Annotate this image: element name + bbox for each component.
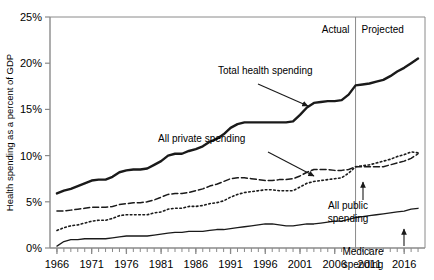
x-tick-label: 2016 (392, 258, 416, 270)
y-tick-label: 10% (20, 150, 42, 162)
x-tick-label: 1971 (79, 258, 103, 270)
projected-label: Projected (362, 24, 404, 35)
total-health-spending-arrow (258, 84, 308, 106)
x-tick-label: 1966 (45, 258, 69, 270)
y-tick-label: 15% (20, 103, 42, 115)
x-tick-label: 1976 (114, 258, 138, 270)
x-tick-label: 1996 (253, 258, 277, 270)
series-total-health-spending (57, 59, 418, 194)
all-private-spending-arrow (268, 152, 314, 176)
all-public-spending-label-line1: All public (328, 200, 368, 211)
y-tick-label: 0% (26, 242, 42, 254)
x-tick-label: 1986 (184, 258, 208, 270)
y-tick-label: 5% (26, 196, 42, 208)
medicare-spending-label-line2: spending (343, 259, 384, 270)
x-tick-label: 1981 (149, 258, 173, 270)
x-tick-label: 2001 (288, 258, 312, 270)
actual-label: Actual (322, 24, 350, 35)
y-tick-label: 20% (20, 57, 42, 69)
total-health-spending-label: Total health spending (218, 65, 313, 76)
x-tick-label: 1991 (218, 258, 242, 270)
all-public-spending-label-line2: spending (328, 213, 369, 224)
chart-container: 0%5%10%15%20%25%196619711976198119861991… (0, 0, 434, 280)
y-tick-label: 25% (20, 11, 42, 23)
all-private-spending-label: All private spending (158, 133, 245, 144)
y-axis-title: Health spending as a percent of GDP (4, 54, 15, 211)
health-spending-line-chart: 0%5%10%15%20%25%196619711976198119861991… (0, 0, 434, 280)
medicare-spending-label-line1: Medicare (342, 246, 384, 257)
